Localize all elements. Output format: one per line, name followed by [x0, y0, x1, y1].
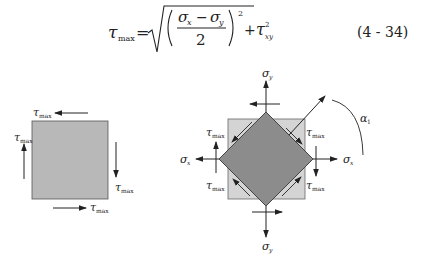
svg-text:−: −	[196, 9, 208, 25]
svg-text:max: max	[212, 132, 225, 139]
svg-text:y: y	[268, 246, 273, 254]
svg-text:x: x	[187, 159, 191, 166]
tau-max-subscript: max	[118, 34, 135, 43]
equation-number: (4 - 34)	[357, 24, 408, 40]
denominator: 2	[196, 31, 206, 49]
equals-sign: =	[136, 23, 149, 42]
principal-stress-element: σ y σ y σ x σ x τ max τ max τ max τ max	[180, 67, 371, 254]
svg-text:x: x	[187, 18, 192, 27]
svg-text:x: x	[350, 159, 354, 166]
svg-text:xy: xy	[265, 33, 274, 41]
svg-text:max: max	[312, 185, 325, 192]
svg-text:max: max	[312, 132, 325, 139]
shear-square	[32, 121, 108, 199]
svg-text:max: max	[20, 137, 33, 144]
pure-shear-element: τ max τ max τ max τ max	[14, 106, 134, 214]
svg-text:+: +	[244, 22, 256, 38]
svg-text:max: max	[212, 185, 225, 192]
angle-arc	[332, 100, 363, 155]
left-paren	[168, 10, 172, 46]
stress-element-figures: τ max τ max τ max τ max	[0, 62, 423, 262]
exponent: 2	[238, 9, 243, 18]
svg-text:1: 1	[367, 118, 371, 125]
svg-text:max: max	[96, 207, 109, 214]
svg-text:max: max	[121, 187, 134, 194]
svg-text:y: y	[218, 18, 224, 27]
svg-text:2: 2	[265, 21, 269, 29]
svg-text:max: max	[39, 112, 52, 119]
equation-4-34: τ max = σ x − σ y 2 2 + τ 2 xy (4 - 34)	[0, 0, 423, 62]
tau-max-symbol: τ	[108, 22, 118, 42]
svg-text:y: y	[268, 73, 273, 81]
right-paren	[229, 10, 233, 46]
